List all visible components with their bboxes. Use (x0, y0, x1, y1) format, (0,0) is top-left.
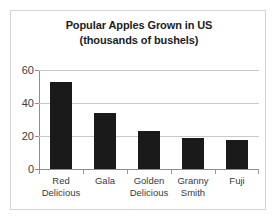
x-tick-mark-5 (258, 170, 259, 174)
bar-red-delicious[interactable] (50, 82, 72, 169)
chart-title-line-1: Popular Apples Grown in US (11, 18, 267, 33)
x-tick-mark-1 (83, 170, 84, 174)
y-tick-label-0: 0 (28, 163, 34, 175)
x-tick-mark-0 (39, 170, 40, 174)
x-axis-labels: Red Delicious Gala Golden Delicious Gran… (39, 175, 259, 207)
x-tick-mark-2 (127, 170, 128, 174)
y-tick-label-40: 40 (22, 97, 34, 109)
x-axis-line (39, 169, 259, 170)
y-tick-label-60: 60 (22, 64, 34, 76)
bar-fuji[interactable] (226, 140, 248, 169)
chart-figure: Popular Apples Grown in US (thousands of… (10, 10, 266, 210)
bar-granny-smith[interactable] (182, 138, 204, 169)
y-tick-label-20: 20 (22, 130, 34, 142)
x-tick-mark-3 (171, 170, 172, 174)
bar-golden-delicious[interactable] (138, 131, 160, 169)
bar-gala[interactable] (94, 113, 116, 169)
chart-title: Popular Apples Grown in US (thousands of… (11, 18, 267, 48)
plot-area: 60 40 20 0 (39, 70, 259, 169)
bars-layer (39, 70, 259, 169)
x-label-fuji: Fuji (209, 175, 265, 187)
x-tick-mark-4 (215, 170, 216, 174)
chart-title-line-2: (thousands of bushels) (11, 33, 267, 48)
